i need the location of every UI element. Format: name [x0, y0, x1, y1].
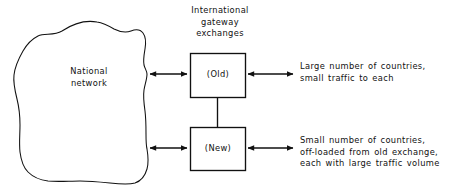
gateway-exchanges-title: International gateway exchanges	[166, 5, 274, 40]
annotation-new-traffic: Small number of countries, off-loaded fr…	[300, 135, 475, 170]
national-network-shape	[14, 21, 148, 184]
national-network-label: National network	[48, 66, 130, 89]
annotation-old-traffic: Large number of countries, small traffic…	[300, 61, 472, 84]
gateway-box-old-label: (Old)	[190, 69, 246, 81]
gateway-box-new-label: (New)	[190, 143, 246, 155]
diagram-canvas: International gateway exchanges National…	[0, 0, 475, 191]
